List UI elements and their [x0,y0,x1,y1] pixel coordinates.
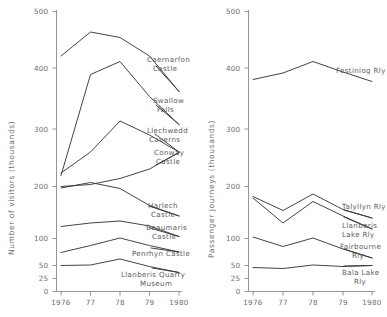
figure-root: Number of visitors (thousands) 500 400 3… [0,0,387,317]
right-ytick-label-0: 0 [236,287,241,296]
left-ytick-label-0: 0 [44,287,49,296]
series-label-bala-lake-rly-line1: Bala Lake [342,268,379,277]
right-xtick-label-78: 78 [308,298,318,307]
series-label-beaumaris-castle-line2: Castle [152,232,176,241]
right-xtick-label-77: 77 [278,298,288,307]
left-ytick-label-400: 400 [34,64,49,73]
series-label-llechwedd-caverns-line2: Caverns [149,135,180,144]
series-label-swallow-falls-line1: Swallow [153,96,184,105]
series-label-bala-lake-rly-line2: Rly [354,277,366,286]
left-ytick-label-50: 50 [39,261,49,270]
right-xtick-label-1976: 1976 [243,298,263,307]
leader-bala-lake [344,266,372,267]
series-label-harlech-castle-line1: Harlech [148,201,178,210]
series-label-llanberis-lake-rly-line1: Llanberis [342,221,377,230]
series-label-festiniog-rly: Festiniog Rly [336,66,386,75]
left-xtick-label-1976: 1976 [51,298,71,307]
right-ytick-label-200: 200 [226,182,241,191]
right-ytick-label-400: 400 [226,64,241,73]
right-ytick-label-50: 50 [231,261,241,270]
figure-background [0,0,387,317]
series-label-penrhyn-castle: Penrhyn Castle [132,249,190,258]
left-xtick-label-1980: 1980 [169,298,189,307]
right-ytick-label-100: 100 [226,234,241,243]
left-y-axis-title: Number of visitors (thousands) [7,121,16,255]
left-ytick-label-200: 200 [34,182,49,191]
left-xtick-label-77: 77 [86,298,96,307]
left-ytick-label-100: 100 [34,234,49,243]
series-label-talyllyn-rly: Talyllyn Rly [341,202,386,211]
series-label-conway-castle-line1: Conway [154,148,184,157]
series-label-harlech-castle-line2: Castle [151,210,175,219]
series-label-llanberis-quarry-line2: Museum [140,279,172,288]
right-xtick-label-1980: 1980 [362,298,382,307]
series-label-llanberis-lake-rly-line2: Lake Rly [342,230,375,239]
right-ytick-label-300: 300 [226,125,241,134]
dual-line-chart-figure: Number of visitors (thousands) 500 400 3… [0,0,387,317]
left-xtick-label-79: 79 [145,298,155,307]
series-label-llanberis-quarry-line1: Llanberis Quarry [121,270,185,279]
right-ytick-label-500: 500 [226,7,241,16]
series-label-llechwedd-caverns-line1: Llechwedd [147,126,188,135]
right-xtick-label-79: 79 [338,298,348,307]
series-label-beaumaris-castle-line1: Beaumaris [146,223,187,232]
series-label-caernarfon-castle-line2: Castle [153,64,177,73]
left-ytick-label-500: 500 [34,7,49,16]
right-ytick-label-25: 25 [231,274,241,283]
series-label-fairbourne-rly-line2: Rly [352,251,364,260]
left-ytick-label-300: 300 [34,125,49,134]
left-xtick-label-78: 78 [115,298,125,307]
left-ytick-label-25: 25 [39,274,49,283]
series-label-conway-castle-line2: Castle [156,157,180,166]
series-label-fairbourne-rly-line1: Fairbourne [340,242,381,251]
series-label-caernarfon-castle-line1: Caernarfon [147,55,190,64]
series-label-swallow-falls-line2: Falls [157,105,174,114]
right-y-axis-title: Passenger journeys (thousands) [207,120,216,258]
